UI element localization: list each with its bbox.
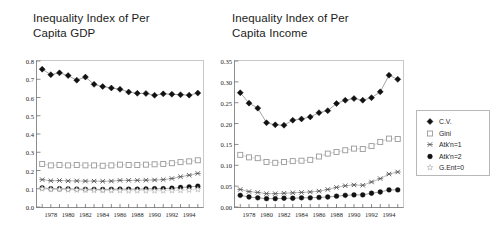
y-tick-label: 0.1 — [12, 185, 34, 192]
legend-label: Atk'n=2 — [439, 153, 462, 160]
legend-label: Atk'n=1 — [439, 141, 462, 148]
open-square-icon — [422, 128, 438, 139]
plot-area-income — [234, 60, 404, 208]
legend-item-g-ent-0[interactable]: G.Ent=0 — [422, 162, 464, 173]
x-tick-label: 1988 — [330, 211, 343, 218]
legend-item-atk-n-2[interactable]: Atk'n=2 — [422, 151, 462, 162]
x-tick-label: 1980 — [260, 211, 273, 218]
y-tick-label: 0.6 — [12, 94, 34, 101]
x-tick-label: 1994 — [183, 211, 196, 218]
y-tick-label: 0.0 — [12, 204, 34, 211]
chart-panel-gdp: Inequality Index of Per Capita GDP 0.00.… — [0, 0, 215, 243]
y-tick-label: 0.10 — [210, 162, 232, 169]
x-tick-label: 1990 — [348, 211, 361, 218]
x-tick-label: 1984 — [96, 211, 109, 218]
y-tick-label: 0.2 — [12, 167, 34, 174]
cross-x-icon — [422, 139, 438, 150]
y-tick-label: 0.5 — [12, 112, 34, 119]
legend-item-c-v[interactable]: C.V. — [422, 116, 452, 127]
series-legend: C.V.GiniAtk'n=1Atk'n=2G.Ent=0 — [416, 110, 490, 176]
x-tick-label: 1978 — [243, 211, 256, 218]
legend-item-atk-n-1[interactable]: Atk'n=1 — [422, 139, 462, 150]
legend-label: C.V. — [439, 118, 452, 125]
chart-title-income: Inequality Index of Per Capita Income — [232, 11, 407, 40]
y-tick-label: 0.05 — [210, 183, 232, 190]
y-tick-label: 0.15 — [210, 141, 232, 148]
y-tick-label: 0.7 — [12, 76, 34, 83]
filled-diamond-icon — [422, 116, 438, 127]
x-tick-label: 1978 — [44, 211, 57, 218]
open-star-icon — [422, 162, 438, 173]
legend-label: Gini — [439, 130, 451, 137]
y-tick-label: 0.3 — [12, 149, 34, 156]
plot-series-income — [234, 60, 404, 208]
x-tick-label: 1992 — [165, 211, 178, 218]
y-tick-label: 0.8 — [12, 58, 34, 65]
x-tick-label: 1986 — [114, 211, 127, 218]
x-tick-label: 1990 — [148, 211, 161, 218]
x-tick-label: 1992 — [365, 211, 378, 218]
figure-canvas: Inequality Index of Per Capita GDP 0.00.… — [0, 0, 502, 243]
x-tick-label: 1994 — [383, 211, 396, 218]
plot-series-gdp — [36, 60, 204, 208]
x-tick-label: 1986 — [313, 211, 326, 218]
filled-circle-icon — [422, 151, 438, 162]
x-tick-label: 1980 — [62, 211, 75, 218]
x-tick-label: 1988 — [131, 211, 144, 218]
legend-item-gini[interactable]: Gini — [422, 128, 451, 139]
y-tick-label: 0.30 — [210, 78, 232, 85]
y-tick-label: 0.25 — [210, 99, 232, 106]
chart-title-gdp: Inequality Index of Per Capita GDP — [33, 11, 208, 40]
y-tick-label: 0.20 — [210, 120, 232, 127]
y-tick-label: 0.4 — [12, 131, 34, 138]
x-tick-label: 1982 — [278, 211, 291, 218]
y-tick-label: 0.00 — [210, 204, 232, 211]
plot-area-gdp — [36, 60, 204, 208]
chart-panel-income: Inequality Index of Per Capita Income 0.… — [218, 0, 408, 243]
legend-label: G.Ent=0 — [439, 164, 464, 171]
x-tick-label: 1982 — [79, 211, 92, 218]
x-tick-label: 1984 — [295, 211, 308, 218]
y-tick-label: 0.35 — [210, 58, 232, 65]
